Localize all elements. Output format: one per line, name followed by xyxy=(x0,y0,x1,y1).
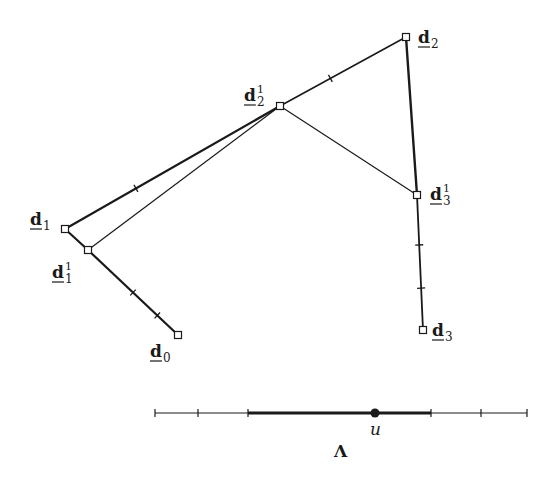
edge-d2_1-d2 xyxy=(280,37,406,106)
label-base: d xyxy=(30,209,42,229)
lambda-label: Λ xyxy=(333,441,348,461)
label-subscript: 2 xyxy=(431,37,439,51)
label-subscript: 3 xyxy=(445,330,453,344)
point-d1 xyxy=(62,226,69,233)
label-d1: d1 xyxy=(30,209,51,233)
label-base: d xyxy=(244,85,256,105)
label-base: d xyxy=(430,184,442,204)
label-subscript: 0 xyxy=(163,351,171,365)
label-d2: d2 xyxy=(418,27,439,51)
edge-d2-d3_1 xyxy=(406,37,417,195)
points xyxy=(62,34,427,339)
point-d3_1 xyxy=(414,192,421,199)
u-label: u xyxy=(370,419,381,439)
label-subscript: 1 xyxy=(65,272,73,286)
de-boor-diagram: d0d1d2d3d11d21d31 uΛ xyxy=(0,0,555,493)
edge-d1_1-d2_1 xyxy=(88,106,280,250)
label-d2_1: d21 xyxy=(244,83,265,109)
label-d0: d0 xyxy=(150,341,171,365)
edge-ticks xyxy=(130,75,425,318)
label-subscript: 2 xyxy=(257,95,265,109)
label-base: d xyxy=(52,262,64,282)
u-marker xyxy=(371,409,380,418)
knot-axis: uΛ xyxy=(155,409,527,462)
label-base: d xyxy=(150,341,162,361)
label-superscript: 1 xyxy=(65,260,72,273)
label-base: d xyxy=(432,320,444,340)
edge-d2_1-d3_1 xyxy=(280,106,417,195)
polygon-edges xyxy=(65,37,423,335)
label-superscript: 1 xyxy=(443,182,450,195)
label-d3: d3 xyxy=(432,320,453,344)
point-labels: d0d1d2d3d11d21d31 xyxy=(30,27,453,365)
point-d3 xyxy=(420,327,427,334)
edge-d1-d2-thick xyxy=(65,106,280,229)
label-base: d xyxy=(418,27,430,47)
label-subscript: 1 xyxy=(43,219,51,233)
point-d2 xyxy=(403,34,410,41)
point-d1_1 xyxy=(85,247,92,254)
label-d3_1: d31 xyxy=(430,182,451,208)
point-d0 xyxy=(175,332,182,339)
label-d1_1: d11 xyxy=(52,260,73,286)
edge-d3_1-d3 xyxy=(417,195,423,330)
point-d2_1 xyxy=(277,103,284,110)
label-superscript: 1 xyxy=(257,83,264,96)
label-subscript: 3 xyxy=(443,194,451,208)
